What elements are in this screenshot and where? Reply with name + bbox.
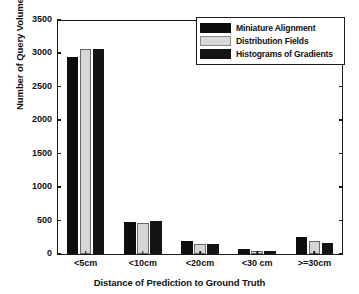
y-tick-label: 2500 (32, 81, 52, 91)
x-tick-mark (142, 251, 144, 255)
y-tick-label: 3500 (32, 14, 52, 24)
bar (322, 243, 334, 254)
legend-swatch-icon (200, 23, 231, 33)
y-tick-label: 3000 (32, 47, 52, 57)
legend-label: Miniature Alignment (236, 23, 315, 33)
legend-label: Histograms of Gradients (236, 49, 333, 59)
x-tick-label: >=30cm (298, 258, 332, 268)
x-axis-label: Distance of Prediction to Ground Truth (0, 277, 359, 288)
y-tick-label: 2000 (32, 114, 52, 124)
x-tick-label: <5cm (74, 258, 97, 268)
legend-item: Histograms of Gradients (200, 48, 341, 60)
bar (93, 49, 105, 254)
bar (137, 223, 149, 254)
legend-swatch-icon (200, 36, 231, 46)
bar (67, 57, 79, 254)
legend-item: Distribution Fields (200, 35, 341, 47)
legend-label: Distribution Fields (236, 36, 309, 46)
x-tick-mark (256, 251, 258, 255)
bar-chart-figure: Number of Query Volumes 0500100015002000… (0, 0, 359, 294)
x-tick-label: <10cm (129, 258, 157, 268)
bar (207, 244, 219, 254)
bar (238, 249, 250, 254)
y-tick-label: 1000 (32, 181, 52, 191)
legend-item: Miniature Alignment (200, 22, 341, 34)
y-tick-label: 500 (37, 215, 52, 225)
x-tick-label: <30 cm (242, 258, 273, 268)
y-axis-label: Number of Query Volumes (14, 0, 25, 127)
bar (80, 49, 92, 254)
y-tick-label: 1500 (32, 148, 52, 158)
x-tick-mark (314, 251, 316, 255)
bar (124, 222, 136, 254)
bar (181, 241, 193, 254)
x-tick-mark (199, 251, 201, 255)
legend-swatch-icon (200, 49, 231, 59)
x-tick-label: <20cm (186, 258, 214, 268)
chart-legend: Miniature Alignment Distribution Fields … (196, 17, 345, 65)
bar (264, 251, 276, 254)
bar (150, 221, 162, 254)
bar (296, 237, 308, 254)
x-tick-mark (85, 251, 87, 255)
y-tick-label: 0 (47, 248, 52, 258)
